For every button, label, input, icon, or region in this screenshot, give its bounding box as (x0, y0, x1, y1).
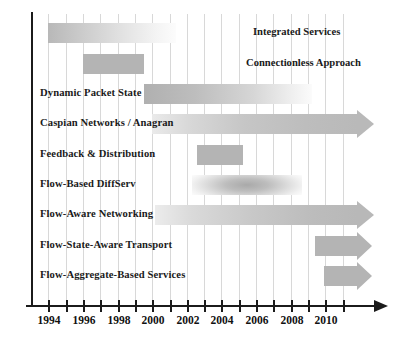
bar-dynamic-packet-state[interactable] (144, 84, 312, 104)
tick-2006 (256, 300, 258, 312)
tick-2002 (187, 300, 189, 312)
x-tick-label-2010: 2010 (303, 314, 349, 326)
tick-1995 (66, 300, 68, 312)
bar-body (324, 266, 357, 286)
series-label-caspian-networks-anagran: Caspian Networks / Anagran (40, 117, 174, 128)
bar-flow-state-aware-transport[interactable] (315, 236, 357, 256)
tick-2001 (170, 300, 172, 312)
tick-2004 (221, 300, 223, 312)
bar-body (144, 84, 312, 104)
y-axis-line (31, 12, 33, 306)
tick-1999 (135, 300, 137, 312)
gridline-1994 (48, 14, 49, 305)
tick-2009 (308, 300, 310, 312)
bar-feedback-distribution[interactable] (197, 145, 243, 165)
bar-connectionless-approach[interactable] (83, 54, 144, 74)
series-label-feedback-distribution: Feedback & Distribution (40, 148, 155, 159)
series-label-flow-aggregate-based-services: Flow-Aggregate-Based Services (40, 269, 185, 280)
bar-body (197, 145, 243, 165)
tick-2005 (239, 300, 241, 312)
tick-2008 (291, 300, 293, 312)
series-label-flow-based-diffserv: Flow-Based DiffServ (40, 178, 136, 189)
bar-arrowhead (357, 262, 372, 290)
tick-1997 (100, 300, 102, 312)
chart-plot-area: 1994 1996 1998 2000 2002 2004 2006 2008 … (0, 0, 409, 338)
x-axis-line (26, 305, 376, 307)
x-axis-arrowhead (374, 300, 388, 312)
bar-body (155, 205, 357, 225)
tick-2007 (273, 300, 275, 312)
bar-flow-aggregate-based-services[interactable] (324, 266, 357, 286)
tick-1998 (118, 300, 120, 312)
bar-flow-based-diffserv[interactable] (192, 175, 302, 195)
bar-arrowhead (357, 201, 374, 229)
series-label-flow-state-aware-transport: Flow-State-Aware Transport (40, 239, 172, 250)
tick-1994 (48, 300, 50, 312)
bar-arrowhead (357, 110, 374, 138)
gridline-2001 (170, 14, 171, 305)
bar-body (152, 114, 357, 134)
tick-2011 (343, 300, 345, 312)
bar-flow-aware-networking[interactable] (155, 205, 357, 225)
bar-caspian-networks-anagran[interactable] (152, 114, 357, 134)
tick-1996 (83, 300, 85, 312)
bar-body (192, 175, 302, 195)
series-label-integrated-services: Integrated Services (253, 26, 340, 37)
series-label-flow-aware-networking: Flow-Aware Networking (40, 208, 153, 219)
tick-2000 (152, 300, 154, 312)
bar-body (315, 236, 357, 256)
bar-arrowhead (357, 232, 372, 260)
timeline-chart-figure: 1994 1996 1998 2000 2002 2004 2006 2008 … (0, 0, 409, 338)
gridline-2002 (187, 14, 188, 305)
bar-integrated-services[interactable] (48, 23, 176, 43)
series-label-connectionless-approach: Connectionless Approach (246, 57, 361, 68)
gridline-2000 (152, 14, 153, 305)
bar-body (83, 54, 144, 74)
tick-2003 (204, 300, 206, 312)
gridline-1995 (66, 14, 67, 305)
tick-2010 (325, 300, 327, 312)
series-label-dynamic-packet-state: Dynamic Packet State (40, 87, 141, 98)
bar-body (48, 23, 176, 43)
